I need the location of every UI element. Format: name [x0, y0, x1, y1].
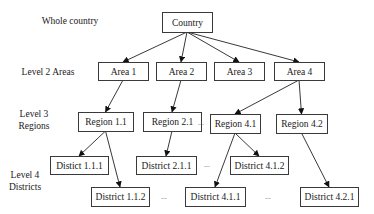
node-label: Distict 1.1.1 — [56, 161, 103, 171]
node-area1: Area 1 — [99, 63, 149, 81]
node-district111: Distict 1.1.1 — [51, 157, 109, 175]
node-label: Area 3 — [227, 67, 253, 77]
node-district412: District 4.1.2 — [231, 157, 289, 175]
level-label-level3: Level 3Regions — [18, 109, 49, 131]
node-label: Area 1 — [111, 67, 137, 77]
level-label-level1: Whole country — [42, 16, 99, 26]
node-district211: District 2.1.1 — [137, 157, 197, 175]
node-district112: District 1.1.2 — [92, 188, 150, 207]
node-label: Area 4 — [287, 67, 313, 77]
ellipsis-marker: ... — [265, 192, 271, 201]
node-region11: Region 1.1 — [79, 113, 134, 132]
node-district411: District 4.1.1 — [186, 188, 246, 207]
node-country: Country — [163, 13, 213, 33]
node-label: Area 2 — [169, 67, 195, 77]
edge-region42-district421 — [302, 133, 330, 187]
level-label-level4: Level 4Districts — [9, 170, 41, 192]
edge-region11-district111 — [79, 131, 106, 156]
level-label-level2: Level 2 Areas — [22, 67, 75, 77]
hierarchy-diagram: CountryArea 1Area 2Area 3Area 4Region 1.… — [0, 0, 374, 214]
node-region21: Region 2.1 — [144, 113, 202, 132]
ellipsis-marker: ... — [161, 192, 167, 201]
edge-country-area3 — [187, 32, 239, 62]
node-label: District 4.1.2 — [235, 161, 285, 171]
node-area2: Area 2 — [157, 63, 207, 81]
node-label: District 4.2.1 — [305, 192, 355, 202]
node-area4: Area 4 — [275, 63, 325, 81]
node-label: Region 2.1 — [152, 117, 194, 127]
node-label: Region 1.1 — [85, 117, 127, 127]
edge-area4-region41 — [235, 80, 299, 114]
node-region41: Region 4.1 — [211, 115, 261, 134]
ellipsis-marker: ... — [198, 118, 204, 127]
node-label: Country — [172, 18, 203, 28]
edge-area4-region42 — [299, 80, 302, 114]
edge-country-area2 — [181, 32, 187, 62]
node-district421: District 4.2.1 — [301, 188, 359, 207]
node-label: District 1.1.2 — [96, 192, 146, 202]
node-area3: Area 3 — [215, 63, 265, 81]
edge-area2-region21 — [172, 80, 181, 112]
node-region42: Region 4.2 — [277, 115, 328, 134]
node-label: District 4.1.1 — [191, 192, 241, 202]
edge-region21-district211 — [166, 131, 172, 156]
edge-country-area4 — [187, 32, 299, 62]
edge-country-area1 — [123, 32, 187, 62]
node-label: District 2.1.1 — [142, 161, 192, 171]
node-label: Region 4.1 — [215, 119, 257, 129]
ellipsis-marker: ... — [204, 160, 210, 169]
edge-region41-district412 — [235, 133, 259, 156]
node-label: Region 4.2 — [281, 119, 323, 129]
edge-area1-region11 — [106, 80, 124, 112]
